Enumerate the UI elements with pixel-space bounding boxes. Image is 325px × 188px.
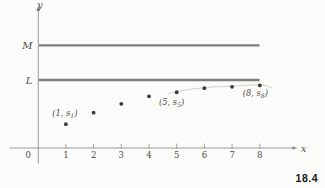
point-label: (5, s5) bbox=[159, 97, 184, 108]
x-tick-label: 6 bbox=[202, 150, 207, 160]
figure-number: 18.4 bbox=[296, 172, 318, 184]
x-axis-label: x bbox=[301, 143, 307, 154]
point-label: (8, s8) bbox=[243, 88, 268, 99]
x-tick-label: 5 bbox=[174, 150, 179, 160]
data-point bbox=[230, 85, 234, 89]
bound-label-L: L bbox=[25, 75, 33, 86]
figure-18-4: y x 0 12345678 ML (1, s1)(5, s5)(8, s8) … bbox=[0, 0, 325, 188]
x-tick-label: 3 bbox=[119, 150, 124, 160]
sequence-convergence-plot: y x 0 12345678 ML (1, s1)(5, s5)(8, s8) bbox=[0, 0, 325, 188]
bound-label-M: M bbox=[21, 40, 33, 51]
y-axis-label: y bbox=[36, 0, 43, 10]
data-point bbox=[119, 102, 123, 106]
x-ticks: 12345678 bbox=[63, 144, 262, 160]
x-tick-label: 2 bbox=[91, 150, 96, 160]
data-point bbox=[147, 94, 151, 98]
x-axis-arrow-icon bbox=[292, 146, 297, 150]
data-point bbox=[92, 111, 96, 115]
data-point bbox=[175, 90, 179, 94]
x-tick-label: 7 bbox=[229, 150, 234, 160]
x-tick-label: 4 bbox=[146, 150, 151, 160]
x-tick-label: 1 bbox=[63, 150, 68, 160]
reference-lines: ML bbox=[21, 40, 259, 86]
data-point bbox=[203, 86, 207, 90]
data-point bbox=[258, 84, 262, 88]
point-label: (1, s1) bbox=[52, 108, 77, 119]
data-point bbox=[64, 122, 68, 126]
point-labels: (1, s1)(5, s5)(8, s8) bbox=[52, 88, 268, 118]
x-tick-label: 8 bbox=[257, 150, 262, 160]
origin-label: 0 bbox=[26, 150, 31, 160]
